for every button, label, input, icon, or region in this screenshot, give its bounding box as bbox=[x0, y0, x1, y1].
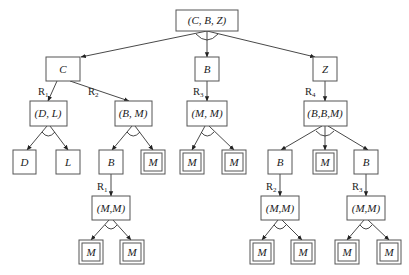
edge-mmr1-m1 bbox=[262, 220, 278, 240]
node-b-right-1-label: B bbox=[277, 156, 284, 168]
node-root-label: (C, B, Z) bbox=[188, 14, 227, 27]
node-bm-label: (B, M) bbox=[119, 107, 148, 120]
node-m-left-terminal-label: M bbox=[147, 156, 158, 168]
edge-dl-l bbox=[50, 126, 68, 150]
node-mm-right-2-label: (M,M) bbox=[352, 202, 381, 215]
edge-mmr2-m1 bbox=[347, 220, 364, 240]
node-m-br2-1-label: M bbox=[341, 246, 352, 258]
node-b-left: B bbox=[99, 150, 123, 174]
node-m-br1-2: M bbox=[291, 240, 315, 264]
node-mm-left: (M,M) bbox=[92, 196, 130, 220]
node-root: (C, B, Z) bbox=[176, 10, 238, 31]
node-l-label: L bbox=[64, 156, 71, 168]
node-bbm-label: (B,B,M) bbox=[307, 107, 343, 120]
edge-bbm-b2 bbox=[328, 126, 368, 150]
node-m-br1-2-label: M bbox=[297, 246, 308, 258]
rule-label-r1-lower: R1 bbox=[97, 181, 108, 194]
node-dl-label: (D, L) bbox=[35, 107, 62, 120]
node-d: D bbox=[13, 150, 36, 174]
and-arc-mm-mid bbox=[201, 132, 214, 136]
node-mm-right-1: (M,M) bbox=[261, 196, 299, 220]
node-mm-left-label: (M,M) bbox=[97, 202, 126, 215]
node-c: C bbox=[46, 57, 80, 81]
node-bm: (B, M) bbox=[115, 101, 152, 126]
node-m-mid-1-label: M bbox=[186, 156, 197, 168]
edge-root-c bbox=[81, 31, 207, 57]
node-dl: (D, L) bbox=[30, 101, 67, 126]
node-b-right-2: B bbox=[354, 150, 378, 174]
edge-bm-m bbox=[135, 126, 153, 150]
node-m-br2-2-label: M bbox=[383, 246, 394, 258]
node-b-mid: B bbox=[195, 57, 219, 81]
edge-c-dl bbox=[48, 81, 57, 101]
node-m-left-terminal: M bbox=[141, 150, 165, 174]
edge-bm-b bbox=[112, 126, 132, 150]
node-m-mid-2-label: M bbox=[228, 156, 239, 168]
edge-dl-d bbox=[27, 126, 47, 150]
node-m-bl-2-label: M bbox=[126, 246, 137, 258]
and-arc-mml bbox=[105, 225, 117, 229]
rule-label-r3-lower: R3 bbox=[352, 181, 363, 194]
node-m-right-terminal-label: M bbox=[319, 156, 330, 168]
node-b-left-label: B bbox=[108, 156, 115, 168]
node-d-label: D bbox=[20, 156, 29, 168]
node-m-br1-1-label: M bbox=[256, 246, 267, 258]
edge-mml-m1 bbox=[91, 220, 109, 240]
node-m-br2-1: M bbox=[335, 240, 359, 264]
rule-label-r3: R3 bbox=[193, 86, 204, 99]
and-arc-dl bbox=[42, 132, 55, 136]
edge-mml-m2 bbox=[113, 220, 131, 240]
node-l: L bbox=[56, 150, 80, 174]
node-mm-right-1-label: (M,M) bbox=[266, 202, 295, 215]
and-arc-bm bbox=[127, 132, 140, 136]
edge-mm-mid-m2 bbox=[209, 126, 234, 150]
node-m-mid-1: M bbox=[180, 150, 204, 174]
edge-mm-mid-m1 bbox=[192, 126, 205, 150]
node-m-mid-2: M bbox=[222, 150, 246, 174]
node-mm-mid: (M, M) bbox=[187, 101, 227, 126]
node-m-br2-2: M bbox=[377, 240, 401, 264]
node-m-bl-1-label: M bbox=[85, 246, 96, 258]
node-z-label: Z bbox=[322, 63, 329, 75]
node-b-mid-label: B bbox=[204, 63, 211, 75]
node-m-bl-1: M bbox=[79, 240, 103, 264]
node-m-br1-1: M bbox=[250, 240, 274, 264]
node-bbm: (B,B,M) bbox=[304, 101, 347, 126]
node-m-right-terminal: M bbox=[313, 150, 337, 174]
node-mm-mid-label: (M, M) bbox=[191, 107, 222, 120]
and-arc-mmr1 bbox=[274, 225, 286, 229]
node-b-right-1: B bbox=[268, 150, 292, 174]
and-or-tree-diagram: R1 R2 R3 R4 R1 R2 R3 (C, B, Z) C B Z (D bbox=[0, 0, 409, 275]
node-z: Z bbox=[313, 57, 337, 81]
node-m-bl-2: M bbox=[120, 240, 144, 264]
edge-mmr2-m2 bbox=[368, 220, 389, 240]
edge-c-bm bbox=[70, 81, 129, 101]
rule-label-r2-lower: R2 bbox=[266, 181, 277, 194]
node-c-label: C bbox=[59, 63, 67, 75]
rule-label-r1: R1 bbox=[38, 86, 49, 99]
rule-label-r4: R4 bbox=[305, 86, 316, 99]
edge-root-z bbox=[207, 31, 315, 57]
rule-label-r2: R2 bbox=[88, 86, 99, 99]
edge-bbm-b1 bbox=[281, 126, 322, 150]
and-arc-mmr2 bbox=[360, 225, 372, 229]
node-mm-right-2: (M,M) bbox=[347, 196, 385, 220]
edge-mmr1-m2 bbox=[282, 220, 302, 240]
node-b-right-2-label: B bbox=[363, 156, 370, 168]
